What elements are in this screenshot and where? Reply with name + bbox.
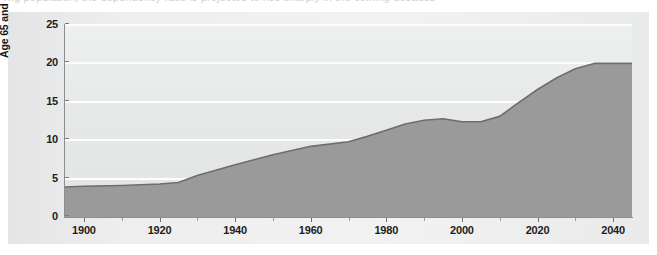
- x-tick-mark-2000: [462, 218, 463, 222]
- x-tick-label-1980: 1980: [366, 224, 406, 236]
- y-tick-mark-5: [65, 177, 69, 178]
- x-minor-tick-1910: [122, 218, 123, 221]
- x-tick-mark-1960: [311, 218, 312, 222]
- y-axis-title: Age 65 and over (percentage): [0, 0, 10, 58]
- y-tick-mark-10: [65, 138, 69, 139]
- x-tick-label-2040: 2040: [593, 224, 633, 236]
- y-tick-mark-15: [65, 100, 69, 101]
- x-tick-label-1900: 1900: [64, 224, 104, 236]
- y-tick-label-5: 5: [32, 172, 58, 184]
- x-minor-tick-2030: [575, 218, 576, 221]
- x-minor-tick-1950: [273, 218, 274, 221]
- x-tick-mark-2040: [613, 218, 614, 222]
- x-minor-tick-1990: [424, 218, 425, 221]
- y-tick-mark-20: [65, 61, 69, 62]
- plot-area: [65, 25, 632, 217]
- x-tick-label-1940: 1940: [215, 224, 255, 236]
- x-tick-label-2000: 2000: [442, 224, 482, 236]
- y-tick-mark-25: [65, 23, 69, 24]
- x-minor-tick-1970: [349, 218, 350, 221]
- figure-container: ng population, the dependency ratio is p…: [0, 0, 657, 255]
- x-minor-tick-1930: [197, 218, 198, 221]
- y-tick-mark-0: [65, 215, 69, 216]
- x-tick-mark-1980: [386, 218, 387, 222]
- y-tick-label-15: 15: [32, 95, 58, 107]
- y-axis-line: [64, 24, 65, 218]
- x-tick-mark-1940: [235, 218, 236, 222]
- y-tick-label-25: 25: [32, 18, 58, 30]
- x-tick-label-2020: 2020: [518, 224, 558, 236]
- x-tick-mark-1900: [84, 218, 85, 222]
- x-tick-label-1960: 1960: [291, 224, 331, 236]
- x-minor-tick-2010: [500, 218, 501, 221]
- area-fill-shape: [65, 63, 632, 217]
- y-tick-label-20: 20: [32, 56, 58, 68]
- x-tick-label-1920: 1920: [140, 224, 180, 236]
- x-tick-mark-1920: [160, 218, 161, 222]
- x-tick-mark-2020: [538, 218, 539, 222]
- area-series-svg: [65, 25, 632, 217]
- y-tick-label-0: 0: [32, 210, 58, 222]
- y-tick-label-10: 10: [32, 133, 58, 145]
- cut-off-caption-text: ng population, the dependency ratio is p…: [8, 0, 648, 5]
